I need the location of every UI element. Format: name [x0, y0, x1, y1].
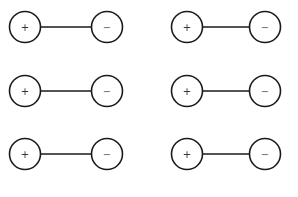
plus-sign: + — [183, 22, 191, 33]
dipole-pair: +− — [172, 76, 281, 107]
dipole-pair: +− — [172, 12, 281, 43]
minus-sign: − — [261, 22, 269, 33]
plus-sign: + — [183, 86, 191, 97]
dipole-pair: +− — [10, 139, 123, 170]
dipole-pair: +− — [10, 12, 123, 43]
dipole-pair: +− — [172, 139, 281, 170]
plus-sign: + — [183, 149, 191, 160]
minus-sign: − — [103, 86, 111, 97]
minus-sign: − — [261, 86, 269, 97]
minus-sign: − — [103, 22, 111, 33]
dipole-pair: +− — [10, 76, 123, 107]
minus-sign: − — [261, 149, 269, 160]
dipole-diagram: +−+−+−+−+−+− — [0, 0, 298, 197]
plus-sign: + — [21, 149, 29, 160]
minus-sign: − — [103, 149, 111, 160]
plus-sign: + — [21, 22, 29, 33]
plus-sign: + — [21, 86, 29, 97]
